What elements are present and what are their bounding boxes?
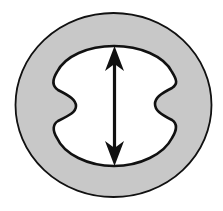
diagram-svg <box>0 0 223 211</box>
diagram-canvas <box>0 0 223 211</box>
